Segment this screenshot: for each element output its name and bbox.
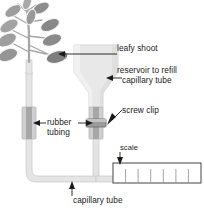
label-capillary-tube: capillary tube [73,196,123,206]
leafy-shoot-plant [0,0,69,65]
label-reservoir-to-refill-capillary-tube: reservoir to refill capillary tube [117,66,177,85]
potometer-illustration [0,0,204,211]
arrowhead-screw-clip [107,113,116,125]
label-rubber-line2: tubing [47,128,71,138]
label-reservoir-line2: capillary tube [117,76,177,86]
label-reservoir-line1: reservoir to refill [117,65,177,75]
rubber-tubing-core [26,107,32,139]
leaf [39,16,62,34]
label-scale: scale [120,143,138,153]
leaf-labelled [45,49,69,66]
leaf [3,2,24,20]
label-screw-clip: screw clip [122,106,159,116]
label-rubber-tubing: rubber tubing [47,118,71,137]
label-leafy-shoot: leafy shoot [117,44,158,54]
plant-leaves [0,0,69,65]
label-rubber-line1: rubber [47,117,71,127]
leaf [0,46,20,65]
leaf [41,31,64,48]
scale-bar-outline [113,163,201,183]
potometer-diagram: leafy shoot reservoir to refill capillar… [0,0,204,211]
scale-bar [113,163,201,183]
